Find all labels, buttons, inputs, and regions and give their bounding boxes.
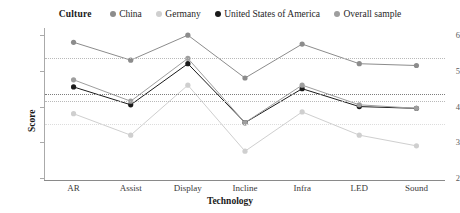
legend-item[interactable]: Germany — [156, 9, 201, 19]
data-point-marker[interactable] — [71, 77, 76, 82]
reference-gridline — [45, 101, 445, 102]
data-point-marker[interactable] — [300, 41, 305, 46]
data-point-marker[interactable] — [185, 61, 190, 66]
data-point-marker[interactable] — [357, 61, 362, 66]
y-tick-mark — [40, 71, 44, 72]
legend-item-label: United States of America — [224, 9, 320, 19]
y-tick-mark — [40, 178, 44, 179]
chart-legend: Culture ChinaGermanyUnited States of Ame… — [0, 6, 460, 22]
reference-gridline — [45, 94, 445, 95]
data-point-marker[interactable] — [414, 63, 419, 68]
chart-figure: Culture ChinaGermanyUnited States of Ame… — [0, 0, 460, 213]
y-tick-label: 3 — [434, 137, 460, 147]
x-tick-label: Incline — [233, 183, 258, 193]
y-axis-label: Score — [27, 109, 37, 132]
data-point-marker[interactable] — [414, 106, 419, 111]
x-axis-label: Technology — [0, 196, 460, 206]
y-tick-mark — [40, 35, 44, 36]
data-point-marker[interactable] — [71, 40, 76, 45]
y-tick-label: 5 — [434, 66, 460, 76]
y-tick-label: 4 — [434, 102, 460, 112]
x-tick-label: Infra — [293, 183, 311, 193]
legend-title: Culture — [59, 9, 92, 19]
x-tick-label: Sound — [405, 183, 428, 193]
y-tick-label: 6 — [434, 30, 460, 40]
reference-gridline — [45, 124, 445, 125]
legend-dot-icon — [215, 11, 221, 17]
data-point-marker[interactable] — [128, 133, 133, 138]
x-axis-line — [44, 180, 445, 181]
x-tick-label: LED — [351, 183, 369, 193]
data-point-marker[interactable] — [71, 111, 76, 116]
data-point-marker[interactable] — [71, 84, 76, 89]
reference-gridline — [45, 58, 445, 59]
data-point-marker[interactable] — [185, 33, 190, 38]
series-line — [74, 58, 417, 122]
legend-dot-icon — [110, 11, 116, 17]
legend-item[interactable]: United States of America — [215, 9, 320, 19]
data-point-marker[interactable] — [357, 133, 362, 138]
legend-item-label: Germany — [165, 9, 200, 19]
legend-item-label: China — [119, 9, 142, 19]
legend-item[interactable]: Overall sample — [334, 9, 401, 19]
x-tick-label: Assist — [120, 183, 142, 193]
data-point-marker[interactable] — [185, 83, 190, 88]
data-point-marker[interactable] — [414, 143, 419, 148]
data-point-marker[interactable] — [357, 102, 362, 107]
data-point-marker[interactable] — [300, 109, 305, 114]
legend-item-label: Overall sample — [343, 9, 401, 19]
plot-area: Score — [45, 28, 445, 178]
legend-dot-icon — [156, 11, 162, 17]
series-lines — [45, 28, 445, 178]
legend-dot-icon — [334, 11, 340, 17]
data-point-marker[interactable] — [300, 83, 305, 88]
x-tick-label: AR — [67, 183, 80, 193]
legend-item[interactable]: China — [110, 9, 142, 19]
y-tick-mark — [40, 107, 44, 108]
y-tick-label: 2 — [434, 173, 460, 183]
series-line — [74, 35, 417, 78]
data-point-marker[interactable] — [242, 149, 247, 154]
x-tick-label: Display — [174, 183, 202, 193]
data-point-marker[interactable] — [242, 75, 247, 80]
y-tick-mark — [40, 142, 44, 143]
